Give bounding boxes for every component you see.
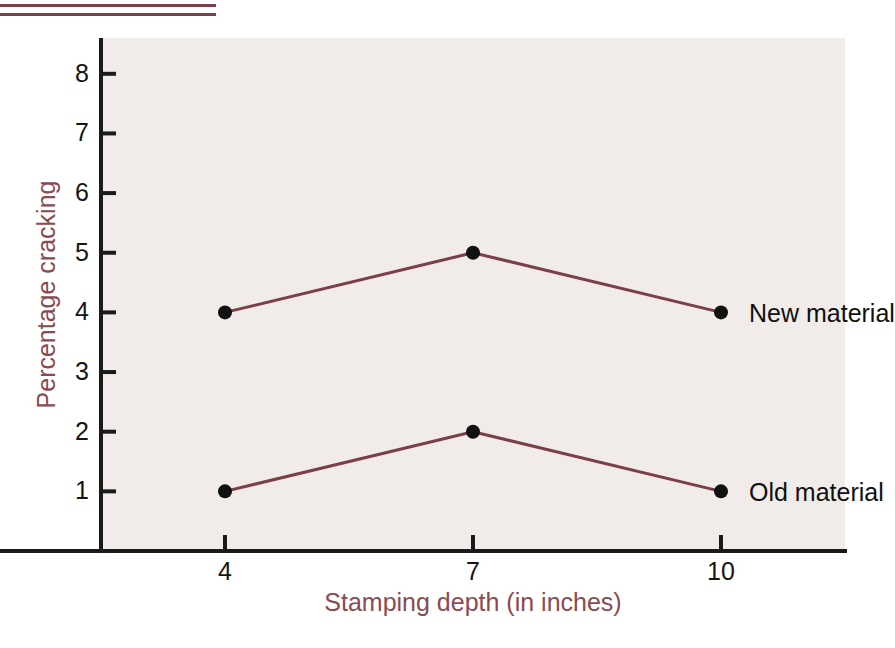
- series-annotation-label: Old material: [749, 478, 884, 507]
- data-point-marker: [218, 305, 232, 319]
- data-point-marker: [466, 425, 480, 439]
- x-axis-title: Stamping depth (in inches): [101, 588, 845, 617]
- data-series-group: [218, 246, 728, 499]
- data-point-marker: [714, 305, 728, 319]
- data-point-marker: [714, 484, 728, 498]
- y-tick-label: 8: [55, 61, 89, 86]
- series-annotation-label: New material: [749, 299, 895, 328]
- data-point-marker: [466, 246, 480, 260]
- series-line: [225, 253, 721, 313]
- series-line: [225, 432, 721, 492]
- y-tick-marks: [101, 74, 116, 492]
- x-tick-marks: [225, 535, 721, 551]
- x-tick-label: 4: [195, 559, 255, 584]
- y-tick-label: 7: [55, 120, 89, 145]
- y-tick-label: 1: [55, 478, 89, 503]
- y-axis-title: Percentage cracking: [32, 165, 61, 425]
- data-point-marker: [218, 484, 232, 498]
- x-tick-label: 10: [691, 559, 751, 584]
- x-tick-label: 7: [443, 559, 503, 584]
- axes-group: [0, 38, 847, 551]
